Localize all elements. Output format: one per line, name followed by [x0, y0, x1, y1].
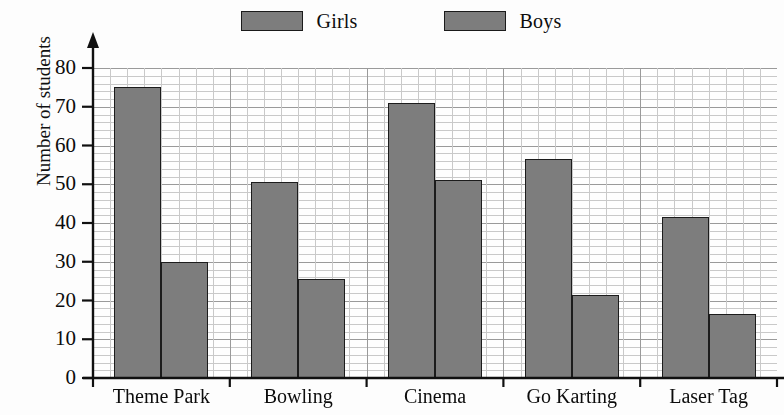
x-tick-label-go-karting: Go Karting — [503, 386, 640, 406]
x-tick-label-bowling: Bowling — [230, 386, 367, 406]
bar-laser-tag-girls — [662, 217, 709, 378]
bar-chart-figure: Girls Boys Number of students 0102030405… — [0, 0, 784, 415]
bar-cinema-boys — [435, 180, 482, 378]
y-tick-label-0: 0 — [34, 367, 76, 388]
chart-legend: Girls Boys — [0, 6, 784, 36]
y-tick-label-80: 80 — [34, 57, 76, 78]
bar-theme-park-girls — [114, 87, 161, 378]
y-tick-label-40: 40 — [34, 212, 76, 233]
bar-bowling-boys — [298, 279, 345, 378]
bar-bowling-girls — [251, 182, 298, 378]
y-tick-label-50: 50 — [34, 173, 76, 194]
bar-theme-park-boys — [161, 262, 208, 378]
y-tick-label-20: 20 — [34, 290, 76, 311]
x-tick-label-theme-park: Theme Park — [93, 386, 230, 406]
bars-layer — [93, 68, 777, 378]
y-tick-label-10: 10 — [34, 328, 76, 349]
x-axis-tick-labels: Theme ParkBowlingCinemaGo KartingLaser T… — [93, 386, 777, 414]
x-tick-label-laser-tag: Laser Tag — [640, 386, 777, 406]
bar-go-karting-girls — [525, 159, 572, 378]
legend-label-girls: Girls — [317, 11, 358, 31]
y-tick-label-70: 70 — [34, 96, 76, 117]
y-tick-label-60: 60 — [34, 135, 76, 156]
legend-swatch-girls — [241, 11, 303, 31]
y-axis-tick-labels: 01020304050607080 — [20, 68, 76, 378]
x-tick-label-cinema: Cinema — [367, 386, 504, 406]
bar-go-karting-boys — [572, 295, 619, 378]
y-tick-label-30: 30 — [34, 251, 76, 272]
bar-cinema-girls — [388, 103, 435, 378]
legend-entry-girls: Girls — [241, 11, 358, 31]
plot-area — [93, 68, 777, 378]
legend-swatch-boys — [444, 11, 506, 31]
legend-label-boys: Boys — [520, 11, 562, 31]
bar-laser-tag-boys — [709, 314, 756, 378]
legend-entry-boys: Boys — [444, 11, 562, 31]
